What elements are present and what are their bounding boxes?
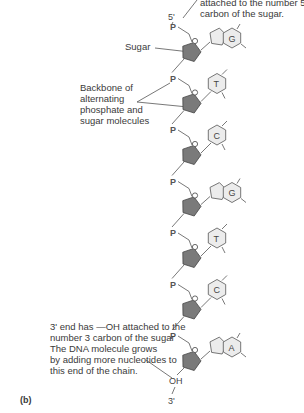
sugar-icon (183, 94, 201, 113)
oh-label: OH (169, 376, 183, 386)
backbone-line3: phosphate and (80, 104, 143, 115)
sugar-icon (183, 351, 201, 370)
bottom-note-line4: by adding more nucleotides to (50, 354, 177, 365)
top-note-line1: attached to the number 5 (200, 0, 304, 8)
base-label: C (214, 131, 221, 141)
base-label: T (214, 79, 220, 89)
nucleotide-1: PG (170, 22, 246, 73)
sugar-label: Sugar (125, 41, 150, 52)
sugar-icon (183, 248, 201, 267)
backbone-line4: sugar molecules (80, 115, 149, 126)
phosphate-label: P (170, 228, 176, 238)
three-prime-bond (172, 387, 175, 394)
sugar-icon (183, 145, 201, 164)
five-prime-label: 5' (168, 12, 175, 22)
sugar-icon (183, 42, 201, 61)
base-label: T (214, 234, 220, 244)
base-label: G (229, 188, 236, 198)
backbone-leader-2 (137, 102, 188, 107)
bottom-note-line3: The DNA molecule grows (50, 343, 157, 354)
panel-label: (b) (20, 395, 32, 406)
nucleotide-5: PT (170, 224, 227, 279)
sugar-icon (183, 197, 201, 216)
bottom-note-line1: 3' end has —OH attached to the (50, 321, 185, 332)
phosphate-label: P (170, 74, 176, 84)
nucleotide-4: PG (170, 177, 246, 228)
three-prime-label: 3' (168, 396, 175, 406)
phosphate-label: P (170, 177, 176, 187)
bottom-note-line5: this end of the chain. (50, 365, 138, 376)
backbone-line2: alternating (80, 93, 124, 104)
bottom-note-line2: number 3 carbon of the sugar (50, 332, 175, 343)
nucleotide-2: PT (170, 70, 227, 125)
phosphate-label: P (170, 280, 176, 290)
base-label: C (214, 285, 221, 295)
nucleotide-3: PC (170, 121, 227, 176)
top-note-line2: carbon of the sugar. (200, 8, 284, 19)
backbone-leader-1 (137, 83, 170, 102)
base-label: A (229, 343, 235, 353)
sugar-icon (183, 300, 201, 319)
base-label: G (229, 34, 236, 44)
backbone-line1: Backbone of (80, 82, 133, 93)
top-note-leader (183, 0, 197, 18)
phosphate-label: P (170, 22, 176, 32)
phosphate-label: P (170, 125, 176, 135)
nucleotide-7: PA (170, 331, 246, 375)
